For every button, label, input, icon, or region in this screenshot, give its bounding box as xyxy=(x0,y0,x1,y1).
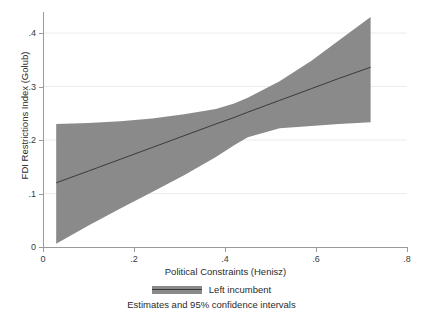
plot-area xyxy=(43,12,407,247)
y-tick-mark xyxy=(39,33,43,34)
x-tick-mark xyxy=(225,248,226,252)
chart-canvas xyxy=(43,12,407,247)
chart-figure: 0.1.2.3.4 0.2.4.6.8 FDI Restrictions Ind… xyxy=(0,0,423,318)
y-tick-mark xyxy=(39,194,43,195)
x-tick-label: .2 xyxy=(121,254,147,264)
legend-swatch-icon xyxy=(152,286,202,294)
chart-legend: Left incumbent xyxy=(0,284,423,295)
confidence-interval-band xyxy=(56,17,370,244)
x-tick-label: .8 xyxy=(394,254,420,264)
x-tick-label: .6 xyxy=(303,254,329,264)
y-tick-label: 0 xyxy=(14,242,36,252)
y-tick-mark xyxy=(39,140,43,141)
x-tick-mark xyxy=(407,248,408,252)
y-axis-title: FDI Restrictions Index (Golub) xyxy=(19,26,30,206)
x-tick-mark xyxy=(43,248,44,252)
x-tick-label: 0 xyxy=(30,254,56,264)
x-tick-label: .4 xyxy=(212,254,238,264)
y-axis-line xyxy=(43,12,44,248)
chart-footnote: Estimates and 95% confidence intervals xyxy=(0,299,423,310)
x-tick-mark xyxy=(316,248,317,252)
x-tick-mark xyxy=(134,248,135,252)
legend-item-label: Left incumbent xyxy=(209,284,271,295)
legend-item-left-incumbent: Left incumbent xyxy=(152,284,271,295)
x-axis-title: Political Constraints (Henisz) xyxy=(43,266,408,277)
y-tick-mark xyxy=(39,87,43,88)
